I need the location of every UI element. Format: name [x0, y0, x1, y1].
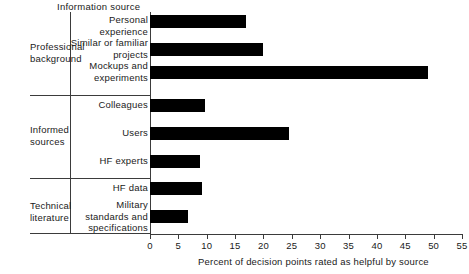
- bar: [150, 66, 428, 79]
- category-label: Mockups andexperiments: [38, 60, 148, 83]
- category-label-line: projects: [38, 49, 148, 61]
- category-label-line: experience: [38, 26, 148, 38]
- category-label-line: Users: [38, 127, 148, 139]
- bar: [150, 99, 205, 112]
- bar: [150, 127, 289, 140]
- category-label-line: HF data: [38, 182, 148, 194]
- x-tick-label: 35: [343, 240, 354, 251]
- category-label-line: HF experts: [38, 155, 148, 167]
- x-tick-label: 40: [371, 240, 382, 251]
- x-tick: [405, 234, 406, 239]
- x-tick-label: 15: [230, 240, 241, 251]
- group-divider-2: [30, 178, 150, 179]
- x-tick-label: 20: [258, 240, 269, 251]
- x-axis-line: [150, 234, 462, 235]
- category-label-line: Personal: [38, 14, 148, 26]
- category-label: Militarystandards andspecifications: [38, 199, 148, 234]
- category-label-line: Similar or familiar: [38, 37, 148, 49]
- category-label-line: Military: [38, 199, 148, 211]
- x-tick: [263, 234, 264, 239]
- x-axis-title: Percent of decision points rated as help…: [198, 256, 429, 267]
- plot-area: [150, 12, 462, 234]
- bar: [150, 155, 200, 168]
- x-tick-label: 45: [400, 240, 411, 251]
- x-tick: [320, 234, 321, 239]
- x-tick-label: 25: [286, 240, 297, 251]
- x-tick: [434, 234, 435, 239]
- horizontal-bar-chart: Information source Professional backgrou…: [0, 0, 469, 274]
- bar: [150, 182, 202, 195]
- category-label-line: standards and: [38, 211, 148, 223]
- x-tick: [462, 234, 463, 239]
- category-label: Similar or familiarprojects: [38, 37, 148, 60]
- bar: [150, 43, 263, 56]
- category-label-line: experiments: [38, 72, 148, 84]
- x-tick-label: 50: [428, 240, 439, 251]
- x-tick-label: 55: [457, 240, 468, 251]
- x-tick: [349, 234, 350, 239]
- x-tick-label: 30: [315, 240, 326, 251]
- x-tick-label: 5: [176, 240, 181, 251]
- x-tick: [377, 234, 378, 239]
- x-tick: [150, 234, 151, 239]
- category-label: Personalexperience: [38, 14, 148, 37]
- category-label: HF experts: [38, 155, 148, 167]
- x-tick: [178, 234, 179, 239]
- category-label: Colleagues: [38, 99, 148, 111]
- chart-column-header: Information source: [57, 1, 140, 12]
- category-label-line: Mockups and: [38, 60, 148, 72]
- category-label-line: specifications: [38, 222, 148, 234]
- bar: [150, 210, 188, 223]
- category-label: Users: [38, 127, 148, 139]
- category-label: HF data: [38, 182, 148, 194]
- category-label-line: Colleagues: [38, 99, 148, 111]
- x-tick: [235, 234, 236, 239]
- x-tick-label: 10: [201, 240, 212, 251]
- x-tick-label: 0: [147, 240, 152, 251]
- x-tick: [207, 234, 208, 239]
- group-divider-1: [30, 95, 150, 96]
- bar: [150, 15, 246, 28]
- x-tick: [292, 234, 293, 239]
